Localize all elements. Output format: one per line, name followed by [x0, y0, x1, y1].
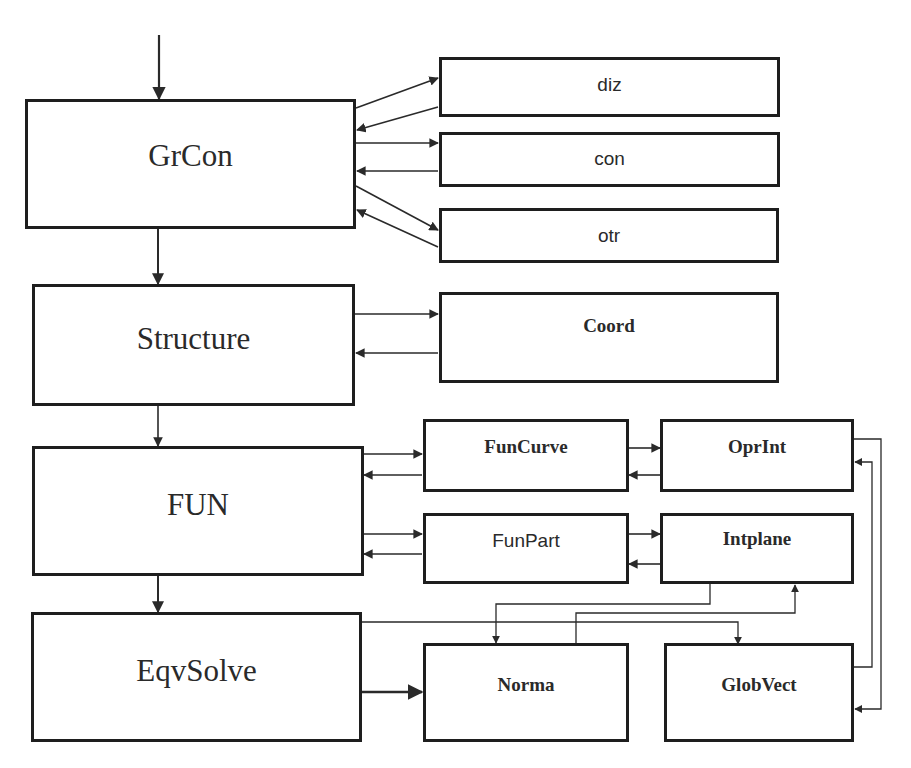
globvect-to-oprint-arrow	[853, 462, 872, 667]
funpart-block: FunPart	[423, 513, 629, 584]
norma-block: Norma	[423, 643, 629, 742]
diz-to-grcon-arrow	[357, 107, 438, 130]
fun-label: FUN	[167, 487, 229, 523]
intplane-label: Intplane	[723, 528, 792, 581]
diz-block: diz	[439, 57, 780, 117]
con-block: con	[439, 132, 780, 187]
norma-to-intplane-arrow	[576, 585, 795, 644]
con-label: con	[594, 148, 625, 184]
funpart-label: FunPart	[492, 530, 560, 581]
module-diagram: GrCon Structure FUN EqvSolve diz con otr…	[0, 0, 911, 768]
structure-label: Structure	[137, 321, 251, 357]
intplane-to-norma-arrow	[496, 584, 710, 643]
globvect-label: GlobVect	[721, 674, 796, 739]
otr-label: otr	[598, 225, 620, 260]
grcon-to-diz-arrow	[356, 78, 438, 108]
coord-block: Coord	[439, 292, 779, 383]
diz-label: diz	[597, 74, 621, 114]
funcurve-label: FunCurve	[484, 436, 567, 489]
oprint-label: OprInt	[728, 436, 786, 489]
coord-label: Coord	[583, 315, 635, 380]
otr-block: otr	[439, 208, 779, 263]
fun-block: FUN	[32, 446, 364, 576]
globvect-block: GlobVect	[664, 643, 854, 742]
norma-label: Norma	[498, 674, 555, 739]
structure-block: Structure	[32, 284, 355, 406]
otr-to-grcon-arrow	[357, 210, 438, 247]
eqvsolve-to-globvect-arrow	[362, 622, 738, 644]
grcon-to-otr-arrow	[356, 186, 438, 230]
eqvsolve-block: EqvSolve	[31, 612, 362, 742]
grcon-block: GrCon	[25, 99, 356, 229]
grcon-label: GrCon	[148, 138, 232, 174]
oprint-block: OprInt	[660, 419, 854, 492]
oprint-to-globvect-arrow	[853, 439, 881, 709]
eqvsolve-label: EqvSolve	[136, 653, 257, 689]
intplane-block: Intplane	[660, 513, 854, 584]
funcurve-block: FunCurve	[423, 419, 629, 492]
